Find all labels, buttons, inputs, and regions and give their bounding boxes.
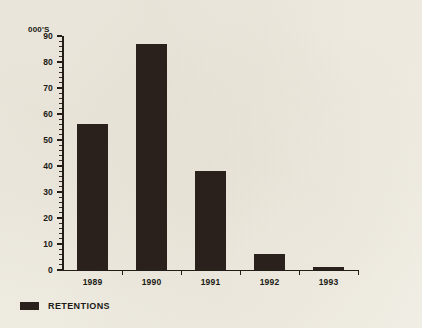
y-axis-label-20: 20 — [43, 213, 53, 223]
y-axis-label-80: 80 — [43, 57, 53, 67]
y-axis-label-40: 40 — [43, 161, 53, 171]
x-separator-tick — [240, 270, 241, 275]
x-separator-tick — [122, 270, 123, 275]
x-axis-label-1991: 1991 — [201, 277, 221, 287]
bar-1993 — [313, 267, 344, 270]
y-axis-label-10: 10 — [43, 239, 53, 249]
bar-1990 — [136, 44, 167, 270]
bar-chart: 000'S 0102030405060708090 19891990199119… — [0, 0, 422, 328]
x-axis-label-1993: 1993 — [319, 277, 339, 287]
y-axis-label-30: 30 — [43, 187, 53, 197]
y-axis-label-50: 50 — [43, 135, 53, 145]
bar-1991 — [195, 171, 226, 270]
bar-1992 — [254, 254, 285, 270]
x-axis-label-1989: 1989 — [83, 277, 103, 287]
x-axis-label-1992: 1992 — [260, 277, 280, 287]
y-axis-label-60: 60 — [43, 109, 53, 119]
x-separator-tick — [299, 270, 300, 275]
legend-label-retentions: RETENTIONS — [48, 301, 110, 311]
y-axis-label-0: 0 — [48, 265, 53, 275]
chart-legend: RETENTIONS — [20, 301, 110, 311]
legend-swatch-retentions — [20, 302, 39, 310]
y-axis-tick-labels: 0102030405060708090 — [0, 36, 53, 270]
x-separator-tick — [181, 270, 182, 275]
x-axis-label-1990: 1990 — [142, 277, 162, 287]
plot-area — [63, 36, 358, 270]
x-axis-end-tick — [358, 270, 360, 275]
y-axis-label-90: 90 — [43, 31, 53, 41]
y-axis-label-70: 70 — [43, 83, 53, 93]
bar-1989 — [77, 124, 108, 270]
